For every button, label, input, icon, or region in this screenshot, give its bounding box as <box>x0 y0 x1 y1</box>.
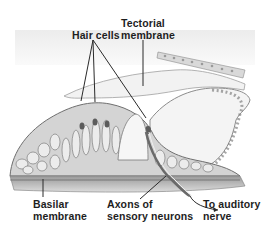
label-hair-cells: Hair cells <box>72 30 120 42</box>
organ-of-corti-diagram: Tectorial membrane Hair cells Basilar me… <box>0 0 270 234</box>
label-line: Tectorial <box>121 18 175 30</box>
label-tectorial-membrane: Tectorial membrane <box>121 18 175 41</box>
label-to-auditory-nerve: To auditory nerve <box>203 199 261 222</box>
label-line: membrane <box>121 30 175 42</box>
label-line: membrane <box>33 211 87 223</box>
label-axons-sensory-neurons: Axons of sensory neurons <box>107 199 193 222</box>
label-basilar-membrane: Basilar membrane <box>33 199 87 222</box>
label-line: Axons of <box>107 199 193 211</box>
label-line: sensory neurons <box>107 211 193 223</box>
label-line: nerve <box>203 211 261 223</box>
label-line: Basilar <box>33 199 87 211</box>
label-line: Hair cells <box>72 30 120 42</box>
basilar-membrane-band <box>10 176 245 192</box>
label-line: To auditory <box>203 199 261 211</box>
